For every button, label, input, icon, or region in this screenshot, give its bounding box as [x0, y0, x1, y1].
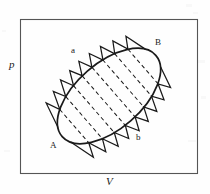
label-point-b: B — [155, 38, 161, 47]
label-point-a: A — [50, 141, 57, 150]
axis-label-volume: V — [106, 176, 113, 187]
axis-label-pressure: p — [9, 59, 15, 70]
label-path-lower: b — [136, 133, 141, 142]
label-path-upper: a — [71, 46, 75, 55]
scan-texture — [0, 0, 210, 194]
pv-diagram-figure — [0, 0, 210, 194]
